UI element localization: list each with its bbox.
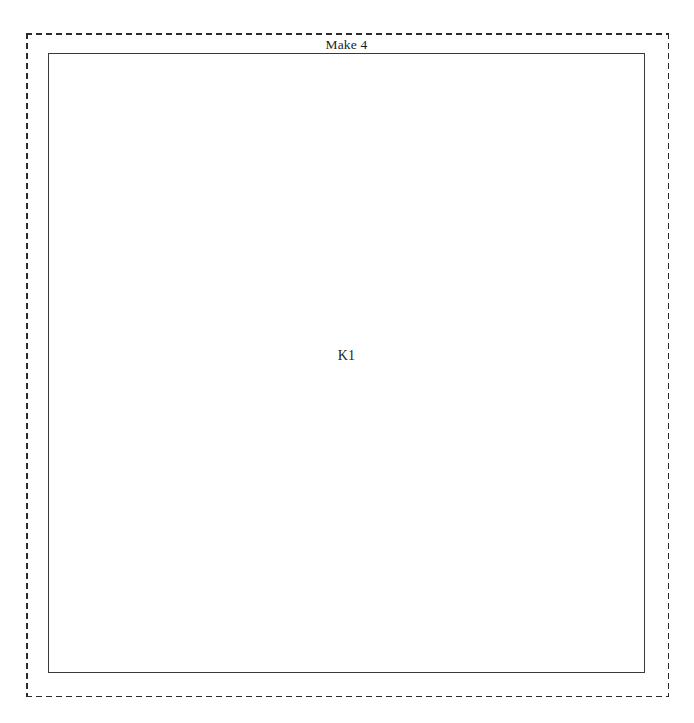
- sheet-boundary-right-edge: [668, 33, 670, 697]
- part-label-k1: K1: [49, 348, 644, 364]
- sheet-boundary-left-edge: [26, 33, 28, 697]
- drawing-canvas: Make 4 K1: [0, 0, 694, 723]
- sheet-boundary-top-edge: [26, 33, 669, 35]
- part-outline-rectangle: K1: [48, 53, 645, 673]
- sheet-boundary-bottom-edge: [26, 696, 669, 698]
- make-quantity-title: Make 4: [48, 37, 645, 53]
